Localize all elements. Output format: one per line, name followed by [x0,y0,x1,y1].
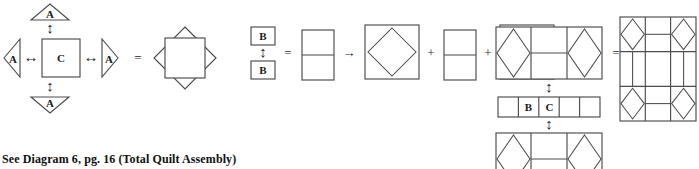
triangle-right-a: A [101,38,119,78]
equals-sign-group-a: = [131,51,145,67]
triangle-left-label: A [5,54,21,65]
quilt-assembly-diagram: A ↕ A ↔ C ↔ A ↕ [0,0,699,169]
arrow-updown-rows-bottom: ↕ [537,117,561,133]
triangle-left-a: A [3,38,21,78]
term-square-in-square-1 [364,24,420,80]
total-quilt-block [619,16,697,122]
two-patch-rectangle-b [301,29,335,81]
result-square-in-square-a [152,25,218,91]
square-in-square-icon [364,24,420,80]
b-square-top-label: B [250,31,276,42]
group-center-block-assembly: A ↕ A ↔ C ↔ A ↕ [0,0,235,120]
row-middle-cell-3: C [539,102,560,113]
two-patch-icon [301,29,335,81]
triangle-top-a: A [30,3,70,21]
arrow-updown-b: ↕ [251,45,275,61]
b-square-bottom: B [250,60,276,80]
three-unit-row-icon [495,26,603,80]
square-in-square-icon [152,25,218,91]
plus-sign-1: + [424,46,438,62]
arrow-right-group-b: → [341,46,357,62]
arrow-updown-bottom: ↕ [38,79,62,95]
figure-caption: See Diagram 6, pg. 16 (Total Quilt Assem… [2,152,236,167]
row-middle-five-cells: B C [497,96,601,118]
triangle-bottom-label: A [30,98,70,109]
arrow-updown-top: ↕ [38,21,62,37]
row-bottom-three-unit [495,132,603,169]
arrow-leftright-right: ↔ [81,50,101,66]
b-square-top: B [250,26,276,46]
triangle-bottom-a: A [30,96,70,114]
row-middle-cell-2: B [518,102,539,113]
equals-sign-group-b: = [281,46,295,62]
total-quilt-icon [619,16,697,122]
triangle-right-label: A [101,54,117,65]
three-unit-row-icon [495,132,603,169]
term-two-patch-2 [443,29,477,81]
arrow-updown-rows-top: ↕ [537,80,561,96]
group-rows-assembly: ↕ B C ↕ [493,0,608,160]
two-patch-icon [443,29,477,81]
center-square-label: C [41,53,81,64]
center-square-c: C [41,38,81,78]
row-top-three-unit [495,26,603,80]
triangle-top-label: A [30,9,70,20]
b-square-bottom-label: B [250,65,276,76]
arrow-leftright-left: ↔ [21,50,41,66]
